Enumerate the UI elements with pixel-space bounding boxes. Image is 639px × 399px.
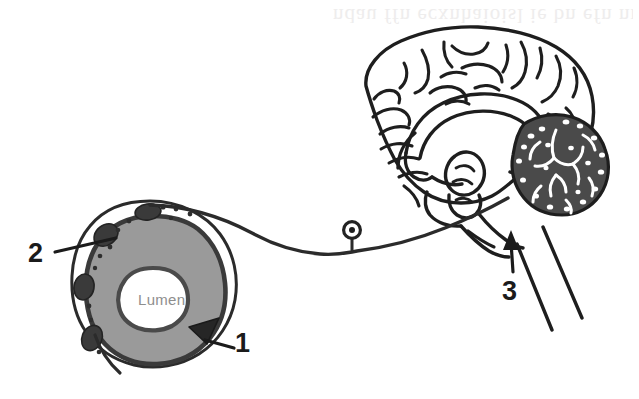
label-3: 3 — [502, 278, 517, 305]
sulcus-superior-14 — [573, 68, 577, 97]
spinal-cord-left-border — [517, 244, 552, 330]
sulcus-superior-13 — [542, 56, 560, 102]
sulcus-superior-10 — [503, 45, 508, 72]
thyroid-follicle-group — [72, 201, 236, 373]
sulcus-superior-1 — [400, 63, 407, 88]
diagram-canvas — [0, 0, 639, 399]
anatomical-diagram-figure: ndau ffn ecxnhaioisl ie bn efn nri — [0, 0, 639, 399]
thalamus-detail-1 — [456, 166, 474, 171]
sulcus-frontal-1 — [374, 90, 400, 103]
sulcus-superior-12 — [537, 48, 542, 78]
ganglion-nucleus — [349, 227, 355, 233]
sulcus-superior-2 — [415, 50, 429, 93]
label-2: 2 — [28, 240, 43, 267]
sulcus-superior-5 — [462, 64, 502, 82]
brain-group — [366, 27, 609, 330]
sulcus-frontal-3 — [380, 127, 409, 134]
temporal-sulcus — [404, 186, 419, 206]
sulcus-superior-4 — [452, 43, 488, 54]
sulcus-superior-11 — [512, 42, 526, 88]
cerebellum-mass — [512, 115, 608, 215]
sulcus-superior-6 — [441, 72, 466, 77]
label-1: 1 — [235, 330, 250, 357]
spinal-cord-right-border — [543, 227, 582, 318]
lumen-label: Lumen — [138, 291, 185, 308]
thalamus-outline — [445, 152, 484, 195]
sulcus-superior-9 — [475, 86, 499, 90]
